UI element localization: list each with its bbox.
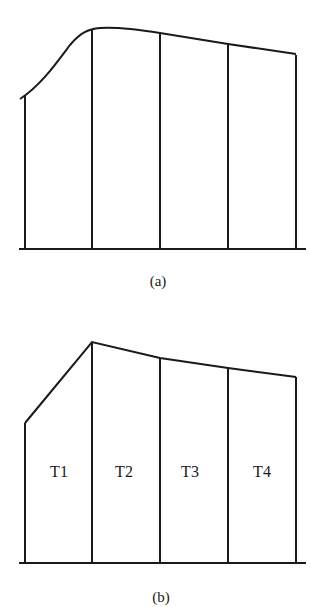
figure-a-top-curve <box>20 28 296 99</box>
segment-label-t2: T2 <box>115 463 133 481</box>
figure-b-caption: (b) <box>152 589 170 606</box>
figure-a-caption: (a) <box>150 273 167 290</box>
segment-label-t1: T1 <box>50 463 68 481</box>
figure-b <box>19 342 306 563</box>
segment-label-t4: T4 <box>253 463 271 481</box>
segment-label-t3: T3 <box>181 463 199 481</box>
diagram-canvas <box>0 0 310 607</box>
figure-a <box>19 28 306 249</box>
